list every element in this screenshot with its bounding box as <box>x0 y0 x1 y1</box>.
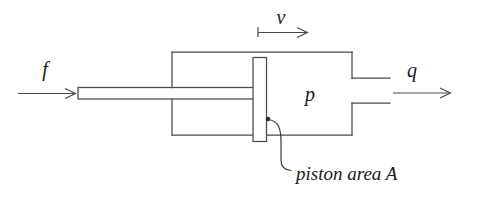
piston-area-leader-path <box>269 120 292 171</box>
velocity-arrow <box>258 27 308 38</box>
force-arrow <box>18 89 76 99</box>
piston-plate <box>253 58 267 142</box>
piston-area-leader-dot <box>266 117 271 122</box>
piston-area-leader <box>266 117 291 171</box>
pressure-label: p <box>303 83 315 106</box>
diagram-canvas: f v p q piston area A <box>0 0 477 199</box>
flow-label: q <box>407 59 417 82</box>
piston-rod <box>78 88 254 100</box>
outlet-port <box>352 78 390 103</box>
force-label: f <box>42 58 50 81</box>
velocity-label: v <box>277 6 286 28</box>
piston-area-caption: piston area A <box>294 163 398 184</box>
piston-cylinder-diagram: f v p q piston area A <box>0 0 477 199</box>
flow-arrow <box>393 88 451 98</box>
